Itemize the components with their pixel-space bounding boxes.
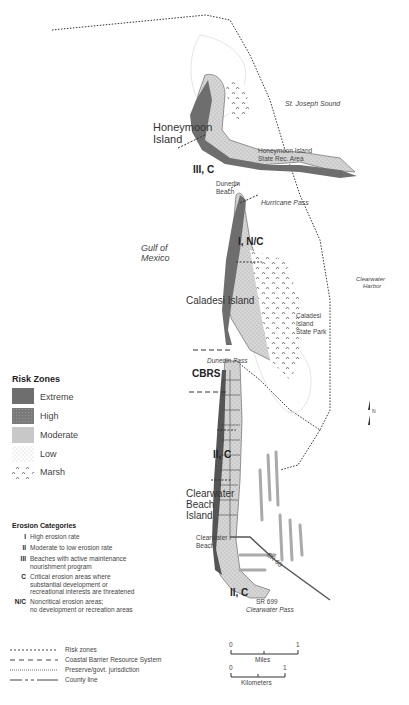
risk-label-high: High <box>40 411 59 421</box>
label-clearwater-harbor-2: Harbor <box>363 283 381 290</box>
swatch-extreme <box>12 388 34 404</box>
label-caladesi-park-1: Caladesi <box>296 312 321 319</box>
label-caladesi-park-2: Island <box>296 320 313 327</box>
line-legend-preserve: Preserve/govt. jurisdiction <box>65 666 139 673</box>
zone-label-ii-c-north: II, C <box>213 449 231 460</box>
risk-zones-title: Risk Zones <box>12 374 60 384</box>
scale-miles-unit: Miles <box>255 656 270 663</box>
erosion-desc: Moderate to low erosion rate <box>30 544 112 552</box>
zone-label-ii-c-south: II, C <box>230 587 248 598</box>
line-legend-cbrs: Coastal Barrier Resource System <box>65 656 161 663</box>
label-clearwater-island-2: Beach <box>186 499 214 510</box>
erosion-code: II <box>10 544 26 552</box>
swatch-marsh <box>12 465 34 481</box>
erosion-desc: recreational interests are threatened <box>30 588 134 596</box>
label-clearwater-harbor-1: Clearwater <box>356 276 385 283</box>
scale-miles-end: 1 <box>296 641 300 648</box>
zone-label-i-nc: I, N/C <box>238 236 264 247</box>
risk-label-marsh: Marsh <box>40 467 65 477</box>
erosion-desc: Critical erosion areas where <box>30 573 111 581</box>
label-clearwater-pass: Clearwater Pass <box>246 606 294 613</box>
erosion-desc: Noncritical erosion areas; <box>30 598 103 606</box>
erosion-code: N/C <box>10 598 26 606</box>
line-legend-county: County line <box>65 676 98 683</box>
label-dunedin-beach-1: Dunedin <box>216 180 240 187</box>
erosion-code: III <box>10 555 26 563</box>
swatch-high <box>12 408 34 424</box>
erosion-desc: Beaches with active maintenance <box>30 555 126 563</box>
line-legend-risk-zones: Risk zones <box>65 646 97 653</box>
label-honeymoon-island-2: Island <box>153 133 182 145</box>
scale-km-end: 1 <box>283 664 287 671</box>
zone-label-cbrs: CBRS <box>192 368 220 379</box>
label-gulf-of-mexico-2: Mexico <box>141 254 170 264</box>
label-honeymoon-park-1: Honeymoon Island <box>258 147 312 154</box>
erosion-desc: nourishment program <box>30 563 92 571</box>
scale-miles-start: 0 <box>229 641 233 648</box>
north-arrow-icon: N <box>372 409 376 415</box>
label-honeymoon-island-1: Honeymoon <box>153 121 212 133</box>
erosion-desc: substantial development or <box>30 581 108 589</box>
erosion-categories-title: Erosion Categories <box>12 522 76 529</box>
label-sr699: SR 699 <box>256 598 278 605</box>
scale-km-unit: Kilometers <box>241 679 272 686</box>
erosion-desc: High erosion rate <box>30 533 80 541</box>
swatch-moderate <box>12 427 34 443</box>
label-clearwater-island-3: Island <box>186 510 213 521</box>
label-st-joseph-sound: St. Joseph Sound <box>285 100 340 108</box>
label-dunedin-beach-2: Beach <box>216 188 234 195</box>
label-dunedin-pass: Dunedin Pass <box>207 357 247 364</box>
erosion-code: C <box>10 573 26 581</box>
risk-label-low: Low <box>40 449 57 459</box>
label-clearwater-island-1: Clearwater <box>186 488 234 499</box>
risk-label-moderate: Moderate <box>40 430 78 440</box>
scale-km-start: 0 <box>229 664 233 671</box>
zone-label-iii-c: III, C <box>193 164 214 175</box>
label-caladesi-island: Caladesi Island <box>186 295 254 306</box>
swatch-low <box>12 446 34 462</box>
erosion-code: I <box>10 533 26 541</box>
label-hurricane-pass: Hurricane Pass <box>261 199 309 207</box>
label-clearwater-beach-2: Beach <box>196 542 214 549</box>
label-clearwater-beach-1: Clearwater <box>196 534 227 541</box>
label-caladesi-park-3: State Park <box>296 328 326 335</box>
risk-label-extreme: Extreme <box>40 392 74 402</box>
label-honeymoon-park-2: State Rec. Area <box>258 155 304 162</box>
erosion-desc: no development or recreation areas <box>30 606 133 614</box>
